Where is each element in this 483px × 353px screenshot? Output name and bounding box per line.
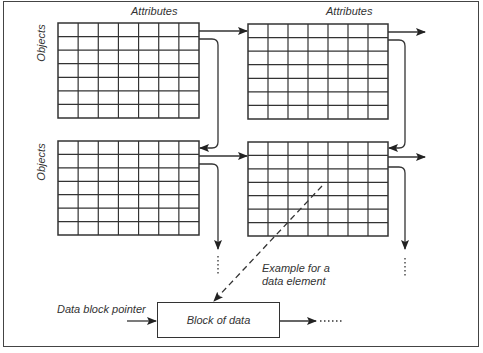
connector-tl-to-bl [199, 39, 218, 148]
block-of-data: Block of data [157, 302, 280, 338]
connector-bl-down [199, 164, 218, 249]
grid-top-left [58, 23, 199, 118]
example-label-line2: data element [262, 275, 326, 287]
column-header-right: Attributes [326, 5, 372, 17]
row-header-top: Objects [35, 24, 47, 61]
diagram-canvas [0, 0, 483, 353]
example-label-line1: Example for a [262, 262, 330, 274]
connector-br-down [388, 167, 405, 249]
grid-bottom-right [248, 142, 388, 236]
data-block-pointer-label: Data block pointer [57, 303, 146, 315]
row-header-bottom: Objects [35, 143, 47, 180]
grid-bottom-left [58, 141, 199, 235]
column-header-left: Attributes [131, 5, 177, 17]
block-of-data-label: Block of data [187, 314, 251, 326]
connector-tr-to-br [388, 40, 405, 148]
grid-top-right [248, 24, 388, 119]
